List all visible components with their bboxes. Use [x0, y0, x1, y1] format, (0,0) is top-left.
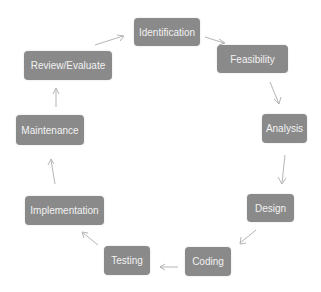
arrow-design-coding	[240, 230, 256, 244]
arrow-feasibility-analysis	[270, 82, 281, 104]
node-label: Implementation	[30, 205, 98, 216]
arrow-testing-implementation	[82, 232, 98, 245]
node-label: Maintenance	[21, 125, 78, 136]
node-label: Design	[255, 203, 286, 214]
node-label: Analysis	[266, 123, 303, 134]
node-label: Testing	[111, 255, 143, 266]
node-identification: Identification	[134, 18, 200, 46]
arrow-implementation-maintenance	[48, 159, 55, 184]
node-review-evaluate: Review/Evaluate	[24, 51, 112, 80]
node-feasibility: Feasibility	[217, 45, 288, 73]
arrow-maintenance-review	[53, 88, 59, 107]
node-testing: Testing	[104, 246, 150, 275]
node-label: Identification	[139, 27, 195, 38]
node-label: Coding	[192, 256, 224, 267]
node-design: Design	[247, 194, 294, 222]
node-maintenance: Maintenance	[16, 115, 84, 145]
arrow-analysis-design	[278, 155, 286, 184]
node-analysis: Analysis	[262, 114, 307, 143]
arrow-identification-feasibility	[205, 37, 225, 45]
node-label: Review/Evaluate	[31, 60, 105, 71]
node-implementation: Implementation	[25, 196, 104, 225]
arrow-review-identification	[95, 35, 124, 45]
node-label: Feasibility	[230, 54, 274, 65]
node-coding: Coding	[185, 247, 231, 276]
arrow-coding-testing	[160, 264, 178, 270]
